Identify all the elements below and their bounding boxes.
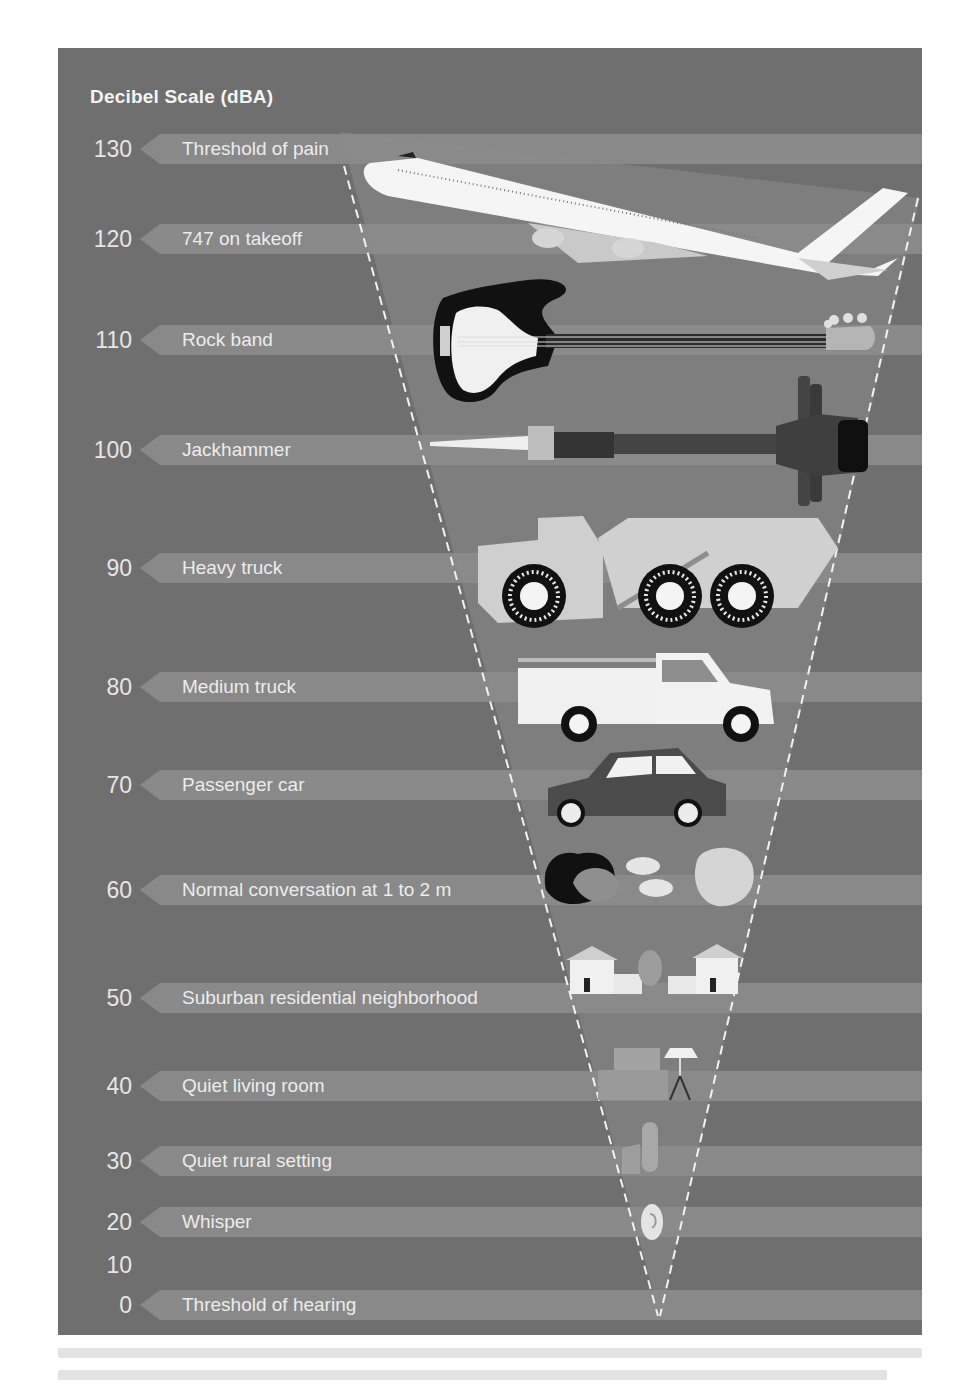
band-label: 747 on takeoff	[182, 228, 302, 250]
band-label: Quiet rural setting	[182, 1150, 332, 1172]
tick-label: 20	[58, 1209, 132, 1235]
decibel-scale-infographic: Decibel Scale (dBA) 13012011010090807060…	[58, 48, 922, 1335]
tick-label: 70	[58, 772, 132, 798]
tick-label: 100	[58, 437, 132, 463]
caption-text-below	[58, 1342, 922, 1394]
band-label: Medium truck	[182, 676, 296, 698]
band-label: Whisper	[182, 1211, 252, 1233]
band-label: Suburban residential neighborhood	[182, 987, 478, 1009]
tick-label: 130	[58, 136, 132, 162]
tick-label: 0	[58, 1292, 132, 1318]
band-label: Heavy truck	[182, 557, 282, 579]
tick-label: 90	[58, 555, 132, 581]
tick-label: 30	[58, 1148, 132, 1174]
band-label: Threshold of hearing	[182, 1294, 356, 1316]
band-label: Jackhammer	[182, 439, 291, 461]
tick-label: 60	[58, 877, 132, 903]
tick-label: 50	[58, 985, 132, 1011]
band-arrow	[140, 1207, 922, 1237]
chart-title: Decibel Scale (dBA)	[90, 86, 273, 108]
tick-label: 10	[58, 1252, 132, 1278]
tick-label: 120	[58, 226, 132, 252]
band-label: Passenger car	[182, 774, 305, 796]
band-label: Threshold of pain	[182, 138, 329, 160]
band-label: Rock band	[182, 329, 273, 351]
tick-label: 80	[58, 674, 132, 700]
ear-illustration	[641, 1204, 663, 1240]
band-label: Normal conversation at 1 to 2 m	[182, 879, 451, 901]
tick-label: 110	[58, 327, 132, 353]
tick-label: 40	[58, 1073, 132, 1099]
band-label: Quiet living room	[182, 1075, 325, 1097]
